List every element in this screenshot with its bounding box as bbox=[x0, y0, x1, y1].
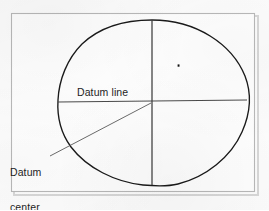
datum-line-label: Datum line bbox=[77, 87, 128, 99]
datum-center-label-line2: center bbox=[10, 202, 41, 211]
point-marker bbox=[178, 64, 180, 66]
datum-center-label-line1: Datum bbox=[10, 167, 41, 179]
figure-frame bbox=[12, 14, 255, 192]
datum-center-label: Datum center bbox=[10, 144, 41, 210]
figure-page: Datum line Datum center bbox=[0, 0, 269, 210]
